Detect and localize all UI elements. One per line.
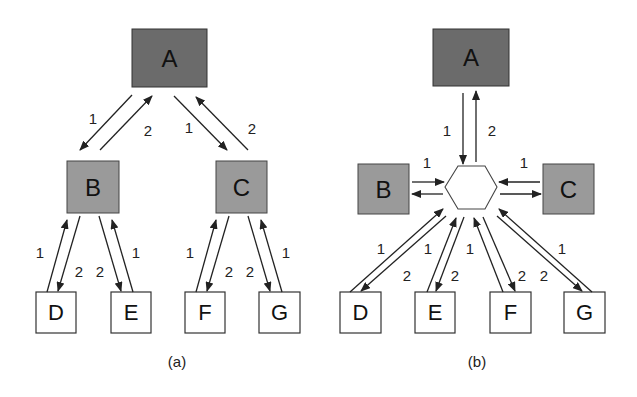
edge-label: 2: [488, 122, 496, 139]
node-a-C: C: [216, 161, 267, 213]
svg-text:C: C: [560, 176, 577, 203]
edge-label: 1: [443, 122, 451, 139]
svg-text:D: D: [48, 300, 64, 325]
node-b-F: F: [490, 292, 531, 333]
svg-text:G: G: [271, 300, 288, 325]
edge-label: 2: [144, 122, 152, 139]
edge-label: 1: [282, 244, 290, 261]
svg-text:D: D: [353, 300, 369, 325]
node-b-E: E: [415, 292, 455, 333]
edge-a-A-to-C: [174, 96, 227, 150]
node-a-F: F: [185, 292, 225, 333]
panel-a: A B C D E F G: [36, 29, 300, 370]
edge-label: 1: [185, 119, 193, 136]
edge-a-B-to-E: [99, 216, 121, 291]
panel-caption-b: (b): [468, 353, 486, 370]
node-a-B: B: [67, 161, 119, 213]
node-b-A: A: [433, 29, 509, 86]
edge-a-C-to-F: [207, 216, 229, 291]
edge-label: 2: [225, 263, 233, 280]
svg-text:A: A: [161, 45, 177, 72]
edge-a-G-to-C: [261, 220, 282, 292]
edge-a-C-to-A: [196, 97, 248, 150]
svg-text:B: B: [85, 174, 101, 201]
edge-label: 2: [451, 267, 459, 284]
svg-text:F: F: [198, 300, 211, 325]
panel-b: A B C D E F G: [340, 29, 605, 370]
edge-label: 2: [96, 263, 104, 280]
edge-a-B-to-D: [58, 216, 80, 291]
svg-text:C: C: [233, 174, 250, 201]
node-b-G: G: [564, 292, 605, 333]
node-a-D: D: [36, 292, 76, 333]
edge-label: 1: [186, 244, 194, 261]
edge-a-C-to-G: [248, 216, 270, 291]
edge-label: 2: [246, 263, 254, 280]
hub-hexagon: [445, 166, 497, 209]
edge-label: 1: [424, 240, 432, 257]
node-a-G: G: [259, 292, 300, 333]
edge-label: 1: [558, 240, 566, 257]
edge-a-F-to-C: [196, 220, 216, 292]
node-b-B: B: [358, 164, 409, 214]
edge-label: 1: [132, 244, 140, 261]
edge-label: 2: [518, 267, 526, 284]
edge-label: 1: [466, 240, 474, 257]
edge-a-D-to-B: [47, 220, 67, 292]
svg-text:G: G: [576, 300, 593, 325]
panel-caption-a: (a): [168, 353, 186, 370]
edge-label: 1: [377, 240, 385, 257]
svg-text:A: A: [463, 44, 479, 71]
edge-label: 2: [248, 120, 256, 137]
node-b-C: C: [543, 164, 594, 214]
edge-label: 1: [89, 110, 97, 127]
edge-label: 2: [403, 267, 411, 284]
node-b-D: D: [340, 292, 381, 333]
edge-a-E-to-B: [112, 220, 133, 292]
edge-label: 1: [36, 244, 44, 261]
edge-label: 1: [423, 154, 431, 171]
edge-label: 2: [540, 267, 548, 284]
edge-label: 2: [75, 263, 83, 280]
node-a-E: E: [111, 292, 151, 333]
svg-text:E: E: [428, 300, 443, 325]
node-a-A: A: [132, 29, 207, 87]
edge-a-A-to-B: [80, 95, 132, 150]
svg-text:E: E: [124, 300, 139, 325]
svg-text:F: F: [504, 300, 517, 325]
figure-canvas: A B C D E F G: [0, 0, 637, 397]
edge-label: 1: [520, 154, 528, 171]
svg-text:B: B: [375, 176, 391, 203]
